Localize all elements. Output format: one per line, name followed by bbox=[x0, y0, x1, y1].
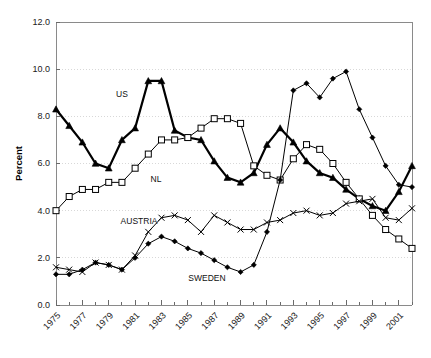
y-axis-title: Percent bbox=[13, 145, 24, 181]
data-point-marker bbox=[238, 120, 244, 126]
y-tick-label: 8.0 bbox=[37, 111, 50, 121]
data-point-marker bbox=[290, 156, 296, 162]
data-point-marker bbox=[369, 212, 375, 218]
data-point-marker bbox=[53, 208, 59, 214]
y-tick-label: 6.0 bbox=[37, 158, 50, 168]
data-point-marker bbox=[211, 116, 217, 122]
data-point-marker bbox=[409, 245, 415, 251]
data-point-marker bbox=[383, 227, 389, 233]
data-point-marker bbox=[317, 146, 323, 152]
data-point-marker bbox=[119, 179, 125, 185]
data-point-marker bbox=[330, 161, 336, 167]
data-point-marker bbox=[106, 179, 112, 185]
data-point-marker bbox=[172, 137, 178, 143]
data-point-marker bbox=[396, 236, 402, 242]
data-point-marker bbox=[198, 125, 204, 131]
annotation-sweden: SWEDEN bbox=[188, 273, 225, 283]
data-point-marker bbox=[224, 116, 230, 122]
y-tick-label: 10.0 bbox=[32, 64, 50, 74]
annotation-austria: AUSTRIA bbox=[121, 216, 158, 226]
data-point-marker bbox=[93, 186, 99, 192]
chart-canvas: 0.02.04.06.08.010.012.0 1975197719791981… bbox=[0, 0, 431, 358]
chart-background bbox=[0, 0, 431, 358]
y-tick-label: 2.0 bbox=[37, 253, 50, 263]
y-tick-label: 0.0 bbox=[37, 300, 50, 310]
data-point-marker bbox=[79, 186, 85, 192]
data-point-marker bbox=[251, 163, 257, 169]
y-tick-label: 12.0 bbox=[32, 17, 50, 27]
annotation-nl: NL bbox=[151, 174, 162, 184]
data-point-marker bbox=[66, 194, 72, 200]
unemployment-rate-line-chart: 0.02.04.06.08.010.012.0 1975197719791981… bbox=[0, 0, 431, 358]
data-point-marker bbox=[158, 137, 164, 143]
data-point-marker bbox=[145, 151, 151, 157]
y-tick-label: 4.0 bbox=[37, 206, 50, 216]
data-point-marker bbox=[185, 135, 191, 141]
data-point-marker bbox=[304, 142, 310, 148]
data-point-marker bbox=[264, 172, 270, 178]
data-point-marker bbox=[132, 165, 138, 171]
annotation-us: US bbox=[116, 89, 128, 99]
data-point-marker bbox=[343, 179, 349, 185]
